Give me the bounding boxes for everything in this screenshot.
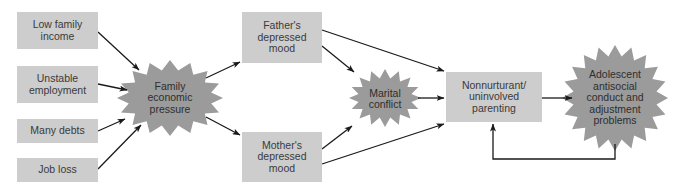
arrow-pressure-to-father	[206, 62, 240, 78]
box-nonnurturant-parenting: Nonnurturant/ uninvolved parenting	[446, 72, 542, 122]
label-family-economic-pressure: Family economic pressure	[135, 78, 205, 118]
arrow-pressure-to-mother	[206, 117, 240, 135]
box-fathers-depressed-mood: Father's depressed mood	[242, 12, 322, 63]
box-many-debts: Many debts	[17, 119, 98, 143]
arrow-father-to-parenting	[322, 30, 444, 71]
arrow-father-to-conflict	[322, 46, 354, 72]
arrow-debts-to-pressure	[98, 119, 125, 131]
family-stress-model-diagram: Low family income Unstable employment Ma…	[0, 0, 682, 190]
arrow-jobloss-to-pressure	[98, 125, 141, 169]
box-unstable-employment: Unstable employment	[17, 66, 98, 103]
label-marital-conflict: Marital conflict	[355, 86, 415, 112]
arrow-mother-to-parenting	[322, 124, 444, 164]
box-job-loss: Job loss	[17, 158, 98, 182]
box-mothers-depressed-mood: Mother's depressed mood	[242, 132, 322, 182]
arrow-mother-to-conflict	[322, 126, 352, 149]
arrow-income-to-pressure	[98, 32, 139, 70]
box-low-family-income: Low family income	[17, 12, 98, 49]
label-adolescent-problems: Adolescent antisocial conduct and adjust…	[575, 68, 655, 128]
